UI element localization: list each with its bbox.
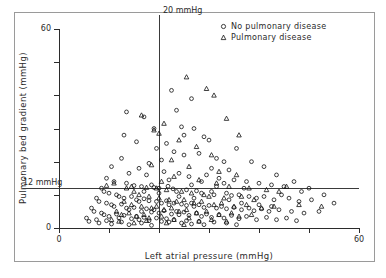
data-point-triangle (137, 192, 142, 196)
data-point-circle (232, 178, 236, 182)
series-triangle (104, 75, 324, 227)
data-point-circle (230, 194, 234, 198)
data-point-circle (110, 222, 114, 226)
data-point-circle (252, 209, 256, 213)
data-point-circle (170, 212, 174, 216)
data-point-circle (257, 203, 261, 207)
data-point-circle (317, 210, 321, 214)
x-tick-0 (59, 228, 60, 233)
data-point-circle (287, 196, 291, 200)
data-point-circle (202, 206, 206, 210)
data-point-triangle (189, 191, 194, 195)
data-point-circle (87, 219, 91, 223)
data-point-triangle (172, 174, 177, 178)
scatter-points-layer (59, 29, 359, 228)
data-point-triangle (177, 138, 182, 142)
horizontal-reference-label: 12 mmHg (23, 179, 62, 187)
data-point-triangle (277, 189, 282, 193)
data-point-triangle (222, 196, 227, 200)
data-point-circle (147, 199, 151, 203)
data-point-triangle (164, 221, 169, 225)
data-point-circle (182, 210, 186, 214)
figure-frame: 60 0 0 60 Pulmonary bed gradient (mmHg) … (14, 12, 375, 262)
data-point-circle (120, 156, 124, 160)
data-point-circle (177, 171, 181, 175)
data-point-circle (227, 198, 231, 202)
data-point-triangle (249, 212, 254, 216)
legend-label-no-pulmonary-disease: No pulmonary disease (231, 21, 326, 32)
data-point-triangle (184, 75, 189, 79)
data-point-triangle (119, 212, 124, 216)
data-point-circle (247, 195, 251, 199)
data-point-circle (162, 170, 166, 174)
data-point-circle (230, 213, 234, 217)
data-point-circle (202, 223, 206, 227)
data-point-circle (307, 186, 311, 190)
data-point-circle (190, 222, 194, 226)
circle-marker-icon (219, 22, 228, 31)
data-point-triangle (124, 186, 129, 190)
data-point-circle (95, 218, 99, 222)
data-point-triangle (169, 158, 174, 162)
data-point-circle (172, 150, 176, 154)
data-point-circle (130, 195, 134, 199)
data-point-circle (222, 160, 226, 164)
legend-label-pulmonary-disease: Pulmonary disease (231, 32, 312, 43)
data-point-circle (235, 223, 239, 227)
data-point-triangle (129, 202, 134, 206)
data-point-circle (120, 202, 124, 206)
data-point-circle (207, 204, 211, 208)
data-point-circle (125, 181, 129, 185)
x-tick-40 (259, 228, 260, 233)
data-point-circle (190, 97, 194, 101)
data-point-circle (270, 183, 274, 187)
data-point-circle (110, 165, 114, 169)
data-point-triangle (114, 209, 119, 213)
data-point-circle (192, 127, 196, 131)
data-point-circle (90, 206, 94, 210)
data-point-circle (187, 175, 191, 179)
data-point-circle (205, 212, 209, 216)
x-tick-label-0: 0 (44, 236, 74, 244)
data-point-circle (171, 187, 175, 191)
data-point-circle (242, 186, 246, 190)
data-point-triangle (144, 185, 149, 189)
data-point-circle (185, 188, 189, 192)
data-point-circle (310, 198, 314, 202)
data-point-circle (205, 173, 209, 177)
data-point-circle (125, 110, 129, 114)
data-point-circle (240, 201, 244, 205)
legend: No pulmonary disease Pulmonary disease (219, 21, 326, 43)
data-point-triangle (204, 86, 209, 90)
data-point-circle (140, 185, 144, 189)
data-point-triangle (199, 199, 204, 203)
data-point-circle (95, 196, 99, 200)
data-point-circle (235, 147, 239, 151)
data-point-circle (127, 171, 131, 175)
data-point-circle (130, 217, 134, 221)
data-point-circle (212, 220, 216, 224)
data-point-circle (155, 216, 159, 220)
data-point-circle (165, 142, 169, 146)
data-point-circle (292, 180, 296, 184)
data-point-circle (175, 108, 179, 112)
data-point-circle (222, 216, 226, 220)
data-point-triangle (179, 189, 184, 193)
data-point-triangle (212, 93, 217, 97)
x-tick-10 (109, 228, 110, 233)
data-point-triangle (224, 116, 229, 120)
data-point-circle (227, 168, 231, 172)
data-point-circle (250, 160, 254, 164)
data-point-circle (257, 181, 261, 185)
data-point-circle (167, 203, 171, 207)
data-point-circle (225, 207, 229, 211)
y-tick-label-0: 0 (11, 224, 51, 232)
data-point-circle (302, 211, 306, 215)
data-point-circle (245, 180, 249, 184)
data-point-circle (160, 158, 164, 162)
data-point-circle (85, 216, 89, 220)
data-point-triangle (217, 169, 222, 173)
x-tick-50 (309, 228, 310, 233)
data-point-triangle (184, 207, 189, 211)
data-point-circle (192, 196, 196, 200)
